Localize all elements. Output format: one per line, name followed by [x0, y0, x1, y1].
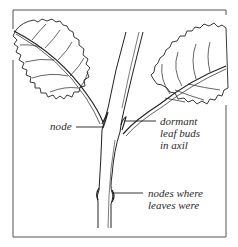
label-dormant-line-1: dormant	[160, 115, 200, 127]
label-nodes-where-line-2: leaves were	[148, 199, 203, 211]
label-dormant-leaf-buds: dormant leaf buds in axil	[160, 115, 200, 151]
plant-node-diagram: node dormant leaf buds in axil nodes whe…	[0, 0, 238, 247]
leader-lines	[76, 121, 156, 193]
label-dormant-line-2: leaf buds	[160, 127, 200, 139]
label-dormant-line-3: in axil	[160, 139, 200, 151]
stem	[97, 32, 143, 228]
label-nodes-where-line-1: nodes where	[148, 187, 203, 199]
label-nodes-where-leaves-were: nodes where leaves were	[148, 187, 203, 211]
label-node: node	[50, 121, 72, 132]
left-leaf	[13, 19, 103, 124]
